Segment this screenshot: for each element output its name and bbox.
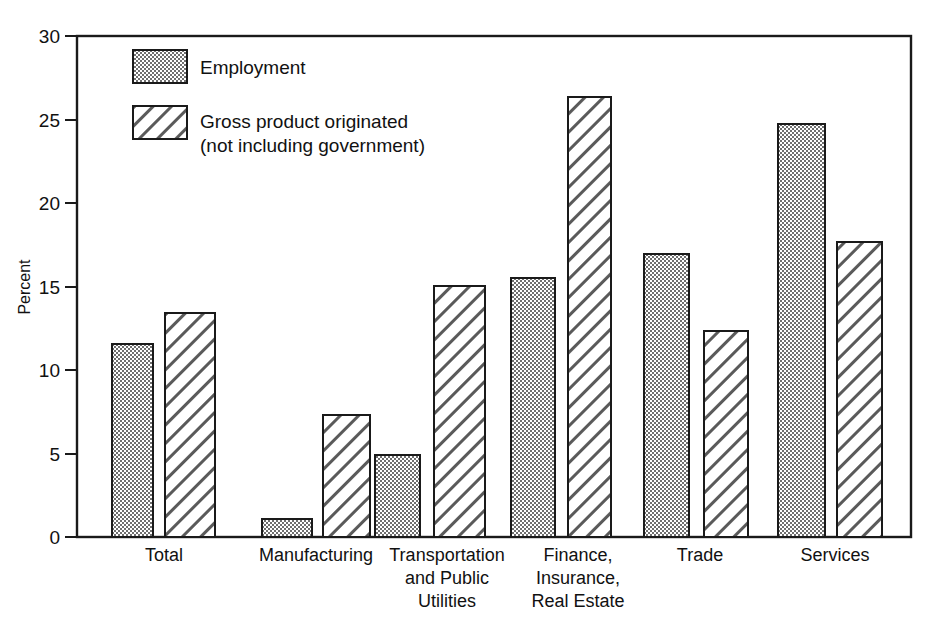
y-axis-ticks — [65, 36, 77, 537]
bar-manufacturing-gross-product — [323, 415, 370, 537]
y-tick-label-10: 10 — [39, 360, 60, 381]
legend-label-employment: Employment — [200, 57, 306, 78]
bar-group-trade — [644, 254, 748, 537]
category-label-services: Services — [800, 545, 869, 565]
category-label-transportation-line2: and Public — [405, 568, 489, 588]
category-label-manufacturing: Manufacturing — [259, 545, 373, 565]
bar-services-gross-product — [837, 242, 882, 537]
legend-swatch-gross-product — [133, 106, 187, 139]
bar-transportation-employment — [375, 455, 420, 537]
chart-legend: Employment Gross product originated (not… — [133, 50, 425, 156]
bar-services-employment — [778, 124, 825, 537]
y-tick-label-20: 20 — [39, 193, 60, 214]
y-axis-title: Percent — [16, 259, 33, 315]
y-tick-label-25: 25 — [39, 110, 60, 131]
category-label-transportation-line1: Transportation — [389, 545, 504, 565]
bar-group-total — [112, 313, 215, 537]
y-tick-label-15: 15 — [39, 277, 60, 298]
bar-total-gross-product — [165, 313, 215, 537]
bar-group-services — [778, 124, 882, 537]
category-label-finance-line2: Insurance, — [536, 568, 620, 588]
category-label-finance-line3: Real Estate — [531, 591, 624, 611]
bar-manufacturing-employment — [262, 519, 312, 537]
legend-label-gross-product-line1: Gross product originated — [200, 111, 408, 132]
y-axis-title-text: Percent — [16, 259, 33, 315]
category-label-finance-line1: Finance, — [543, 545, 612, 565]
category-label-transportation-line3: Utilities — [418, 591, 476, 611]
bar-group-transportation — [375, 286, 485, 537]
category-label-trade: Trade — [677, 545, 723, 565]
bar-transportation-gross-product — [434, 286, 485, 537]
y-tick-label-0: 0 — [49, 527, 60, 548]
bar-trade-employment — [644, 254, 689, 537]
bar-finance-gross-product — [568, 97, 611, 537]
y-tick-label-5: 5 — [49, 444, 60, 465]
bar-trade-gross-product — [704, 331, 748, 537]
bar-chart-figure: 30 25 20 15 10 5 0 Percent Employment Gr… — [0, 0, 941, 624]
y-axis-tick-labels: 30 25 20 15 10 5 0 — [39, 26, 60, 548]
legend-swatch-employment — [133, 50, 187, 83]
bar-group-manufacturing — [262, 415, 370, 537]
bar-total-employment — [112, 344, 153, 537]
bar-finance-employment — [511, 278, 555, 537]
y-tick-label-30: 30 — [39, 26, 60, 47]
category-label-total: Total — [145, 545, 183, 565]
x-axis-category-labels: Total Manufacturing Transportation and P… — [145, 545, 870, 611]
chart-canvas: 30 25 20 15 10 5 0 Percent Employment Gr… — [0, 0, 941, 624]
bar-group-finance — [511, 97, 611, 537]
legend-label-gross-product-line2: (not including government) — [200, 135, 425, 156]
